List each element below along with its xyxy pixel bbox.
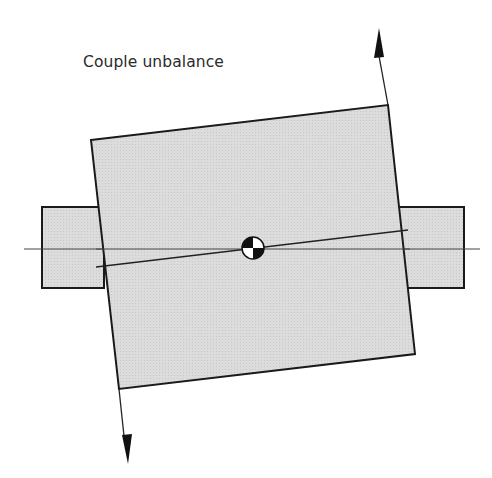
- arrowhead-down-icon: [122, 434, 132, 464]
- center-of-mass-icon: [242, 237, 264, 259]
- force-arrow-up: [379, 56, 388, 105]
- couple-unbalance-diagram: [0, 0, 492, 478]
- arrowhead-up-icon: [374, 28, 384, 58]
- left-shaft: [42, 207, 104, 288]
- right-shaft: [398, 207, 464, 288]
- force-arrow-down: [119, 389, 124, 436]
